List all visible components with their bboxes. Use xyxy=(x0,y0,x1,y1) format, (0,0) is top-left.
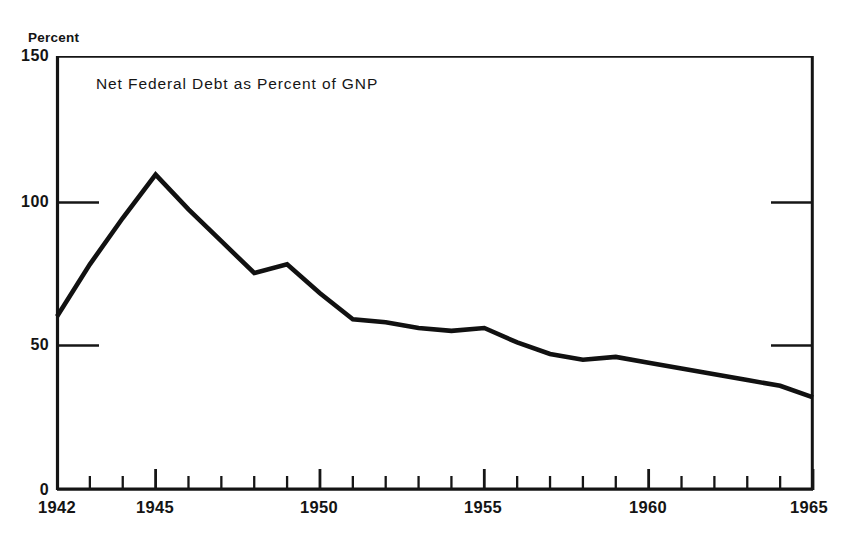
y-tick-label-0: 0 xyxy=(40,482,49,498)
x-tick-label-1960: 1960 xyxy=(629,499,667,516)
x-tick-label-1955: 1955 xyxy=(464,499,502,516)
axis-frame xyxy=(57,56,813,490)
clipped-header-remnant: Chart 7. Net Federal Debt as Percent of … xyxy=(44,0,804,9)
x-tick-label-1950: 1950 xyxy=(300,499,338,516)
y-tick-label-150: 150 xyxy=(21,48,49,64)
data-series-line xyxy=(57,175,813,398)
x-axis-ticks xyxy=(90,469,813,490)
series-caption: Net Federal Debt as Percent of GNP xyxy=(96,75,378,93)
y-tick-label-100: 100 xyxy=(21,194,49,210)
y-axis-unit-label: Percent xyxy=(28,30,79,45)
chart-figure: Chart 7. Net Federal Debt as Percent of … xyxy=(0,0,843,547)
x-tick-label-1965: 1965 xyxy=(790,499,828,516)
x-tick-label-1942: 1942 xyxy=(38,499,76,516)
y-tick-label-50: 50 xyxy=(30,337,49,353)
gridline-stubs xyxy=(57,203,813,346)
x-tick-label-1945: 1945 xyxy=(136,499,174,516)
clipped-header-text: Chart 7. Net Federal Debt as Percent of … xyxy=(44,0,439,5)
